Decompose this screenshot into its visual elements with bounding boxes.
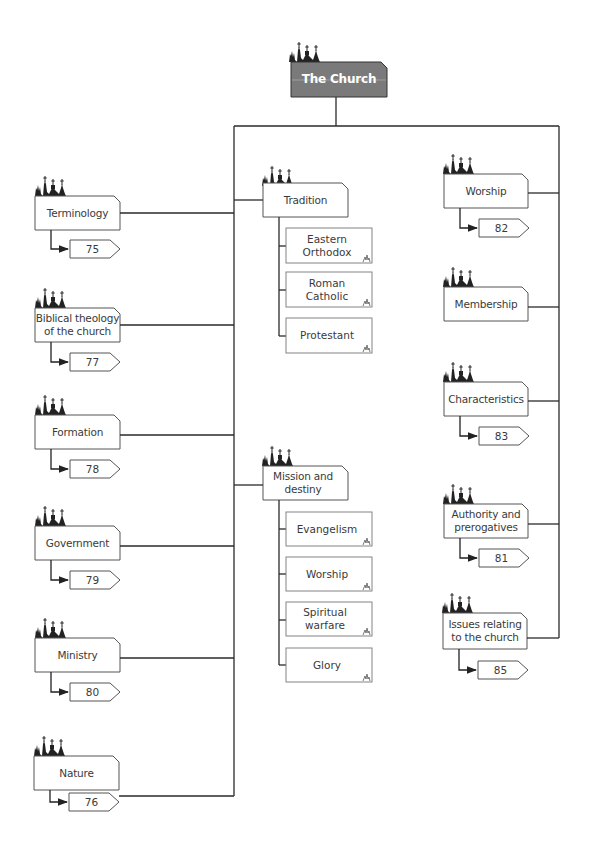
church-silhouette-icon [443, 484, 474, 504]
page-number: 81 [479, 549, 524, 567]
church-silhouette-icon [35, 506, 66, 526]
church-silhouette-icon [35, 618, 66, 638]
page-number: 82 [479, 219, 524, 237]
node-label: Formation [35, 415, 120, 449]
page-number: 78 [70, 460, 115, 478]
sub-label: Evangelism [290, 512, 364, 546]
church-silhouette-icon [35, 176, 66, 196]
sub-label: Glory [290, 648, 364, 682]
page-number: 75 [70, 240, 115, 258]
page-number: 77 [70, 353, 115, 371]
node-label: Issues relating to the church [443, 613, 527, 649]
node-label: Worship [444, 174, 528, 208]
church-silhouette-icon [262, 446, 293, 466]
root-label: The Church [291, 62, 387, 97]
node-label: Mission and destiny [263, 466, 343, 500]
node-label: Terminology [35, 196, 120, 230]
church-silhouette-icon [35, 288, 66, 308]
church-silhouette-icon [35, 395, 66, 415]
page-number: 76 [69, 793, 114, 811]
node-label: Ministry [35, 638, 120, 672]
node-label: Membership [444, 287, 528, 321]
page-number: 83 [479, 427, 524, 445]
sub-label: Eastern Orthodox [290, 228, 364, 263]
page-number: 85 [478, 661, 523, 679]
node-label: Characteristics [444, 382, 528, 416]
node-label: Authority and prerogatives [444, 504, 528, 538]
node-label: Government [35, 526, 120, 560]
node-label: Tradition [263, 183, 348, 217]
church-silhouette-icon [443, 362, 474, 382]
sub-label: Spiritual warfare [290, 602, 360, 636]
page-number: 79 [70, 571, 115, 589]
church-silhouette-icon [289, 42, 320, 62]
node-label: Nature [34, 756, 119, 790]
node-label: Biblical theology of the church [35, 308, 120, 342]
sub-label: Roman Catholic [290, 272, 364, 307]
church-silhouette-icon [34, 736, 65, 756]
church-silhouette-icon [442, 593, 473, 613]
sub-label: Worship [290, 557, 364, 591]
page-number: 80 [70, 683, 115, 701]
sub-label: Protestant [290, 318, 364, 353]
church-silhouette-icon [443, 267, 474, 287]
church-silhouette-icon [443, 154, 474, 174]
